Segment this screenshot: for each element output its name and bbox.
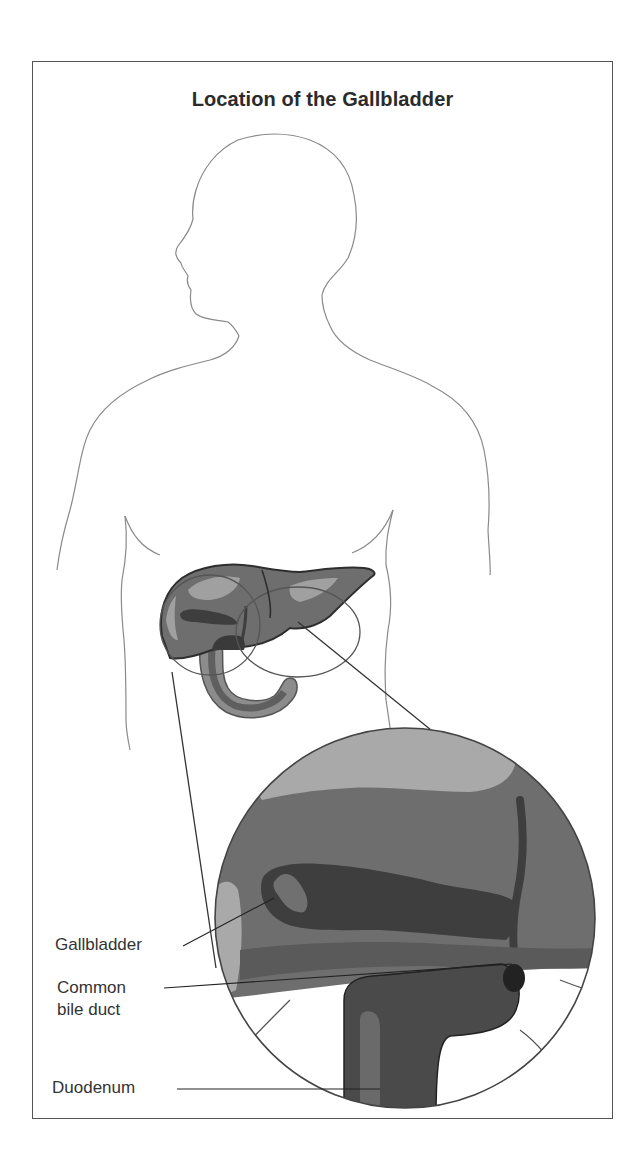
- liver-small: [160, 565, 375, 718]
- label-common-bile-duct-line2: bile duct: [57, 1000, 120, 1020]
- magnified-view: [210, 720, 610, 1120]
- body-outline: [57, 134, 490, 758]
- label-gallbladder: Gallbladder: [55, 935, 142, 955]
- zoom-line-left: [172, 672, 216, 968]
- label-common-bile-duct-line1: Common: [57, 978, 126, 998]
- label-duodenum: Duodenum: [52, 1078, 135, 1098]
